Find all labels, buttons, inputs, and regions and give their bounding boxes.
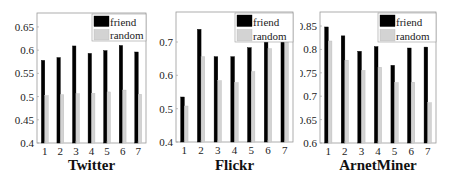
bar-friend <box>281 42 285 142</box>
bar-random <box>218 81 222 142</box>
bar-friend <box>104 51 107 143</box>
y-tick-label: 0.85 <box>300 20 318 32</box>
x-tick-label: 6 <box>408 145 414 157</box>
bar-random <box>328 41 332 143</box>
bar-friend <box>119 46 122 144</box>
x-tick-label: 3 <box>73 145 79 157</box>
x-tick-label: 1 <box>182 144 188 156</box>
y-tick-label: 0.4 <box>159 136 173 148</box>
x-tick-label: 7 <box>425 145 431 157</box>
bar-friend <box>88 53 91 143</box>
bar-random <box>107 92 110 143</box>
bar-friend <box>374 47 378 143</box>
bar-friend <box>135 52 138 143</box>
x-tick-label: 5 <box>104 145 110 157</box>
bar-random <box>411 82 415 143</box>
x-axis-title: ArnetMiner <box>339 157 417 173</box>
bar-random <box>184 106 188 142</box>
x-tick-label: 4 <box>232 144 238 156</box>
legend-swatch-random <box>380 30 395 42</box>
legend-swatch-random <box>94 30 109 41</box>
x-tick-label: 1 <box>42 145 48 157</box>
chart-flickr-svg: 12345670.40.50.60.7Flickrfriendrandom <box>150 0 300 176</box>
y-tick-label: 0.5 <box>20 91 34 103</box>
bar-friend <box>424 47 428 143</box>
bar-random <box>60 95 63 143</box>
legend-swatch-friend <box>380 15 395 27</box>
x-tick-label: 7 <box>282 144 288 156</box>
bar-friend <box>325 27 329 143</box>
legend-swatch-random <box>237 30 252 42</box>
x-tick-label: 5 <box>248 144 254 156</box>
x-axis-title: Twitter <box>68 157 116 173</box>
y-tick-label: 0.8 <box>303 43 317 55</box>
chart-arnetminer-svg: 12345670.60.650.70.750.80.85ArnetMinerfr… <box>300 0 450 176</box>
bar-friend <box>341 36 345 143</box>
chart-twitter-svg: 12345670.40.450.50.550.60.65Twitterfrien… <box>0 0 150 176</box>
chart-flickr: 12345670.40.50.60.7Flickrfriendrandom <box>150 0 300 176</box>
legend: friendrandom <box>235 13 293 42</box>
x-tick-label: 3 <box>215 144 221 156</box>
x-tick-label: 5 <box>392 145 398 157</box>
chart-twitter: 12345670.40.450.50.550.60.65Twitterfrien… <box>0 0 150 176</box>
bar-random <box>251 72 255 142</box>
bar-friend <box>73 46 76 143</box>
bar-random <box>378 67 382 143</box>
bar-friend <box>248 48 252 142</box>
legend-label-random: random <box>253 30 287 42</box>
y-tick-label: 0.75 <box>300 67 318 79</box>
bar-friend <box>391 65 395 143</box>
x-tick-label: 7 <box>135 145 141 157</box>
bar-random <box>235 83 239 142</box>
bar-random <box>123 90 126 143</box>
x-tick-label: 2 <box>198 144 204 156</box>
legend: friendrandom <box>378 13 436 42</box>
bar-random <box>361 70 365 143</box>
legend-swatch-friend <box>237 15 252 27</box>
y-tick-label: 0.4 <box>20 137 34 149</box>
y-tick-label: 0.7 <box>159 36 173 48</box>
bar-random <box>76 94 79 143</box>
bar-random <box>395 83 399 143</box>
y-tick-label: 0.6 <box>20 44 34 56</box>
x-axis-title: Flickr <box>215 157 254 173</box>
x-tick-label: 2 <box>342 145 348 157</box>
x-tick-label: 1 <box>326 145 332 157</box>
y-tick-label: 0.65 <box>15 21 35 33</box>
bar-random <box>138 94 141 143</box>
x-tick-label: 2 <box>58 145 64 157</box>
bar-friend <box>214 57 218 142</box>
bar-friend <box>197 29 201 142</box>
bar-friend <box>41 60 44 143</box>
bar-random <box>285 42 289 142</box>
bar-friend <box>407 48 411 143</box>
legend-label-friend: friend <box>110 16 137 28</box>
chart-arnetminer: 12345670.60.650.70.750.80.85ArnetMinerfr… <box>300 0 450 176</box>
y-tick-label: 0.55 <box>15 67 35 79</box>
legend-label-random: random <box>396 30 430 42</box>
y-tick-label: 0.65 <box>300 114 318 126</box>
bar-random <box>268 49 272 142</box>
bar-friend <box>181 97 185 142</box>
x-tick-label: 6 <box>265 144 271 156</box>
bar-friend <box>57 58 60 143</box>
x-tick-label: 4 <box>375 145 381 157</box>
bar-random <box>428 103 432 143</box>
bar-friend <box>264 42 268 142</box>
x-tick-label: 4 <box>89 145 95 157</box>
legend-label-friend: friend <box>396 16 423 28</box>
legend-label-friend: friend <box>253 16 280 28</box>
y-tick-label: 0.6 <box>303 137 317 149</box>
x-tick-label: 3 <box>359 145 365 157</box>
y-tick-label: 0.45 <box>15 114 35 126</box>
x-tick-label: 6 <box>120 145 126 157</box>
bar-random <box>92 93 95 143</box>
bar-friend <box>231 57 235 142</box>
bar-random <box>45 96 48 143</box>
bar-random <box>201 57 205 142</box>
legend: friendrandom <box>92 14 146 41</box>
y-tick-label: 0.5 <box>159 103 173 115</box>
bar-random <box>345 60 349 143</box>
y-tick-label: 0.7 <box>303 90 317 102</box>
legend-swatch-friend <box>94 16 109 27</box>
